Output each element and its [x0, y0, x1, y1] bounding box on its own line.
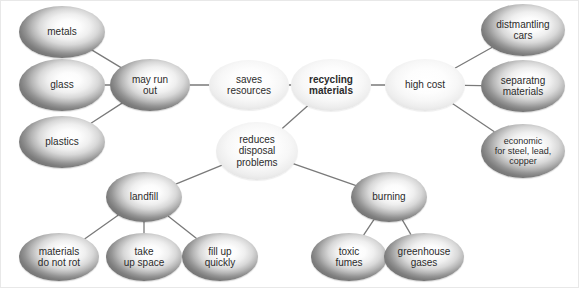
node-landfill[interactable]: landfill [106, 172, 182, 222]
node-take_space[interactable]: take up space [106, 233, 182, 281]
connector-landfill-to-fill_up [168, 216, 196, 238]
node-plastics[interactable]: plastics [19, 116, 105, 168]
connector-high_cost-to-economic [453, 104, 494, 132]
node-recycling[interactable]: recycling materials [291, 59, 371, 111]
connector-high_cost-to-dismantling [455, 47, 492, 68]
node-reduces[interactable]: reduces disposal problems [216, 122, 298, 180]
connector-reduces-to-landfill [176, 165, 221, 183]
node-glass[interactable]: glass [19, 59, 105, 111]
node-toxic[interactable]: toxic fumes [311, 233, 387, 281]
node-fill_up[interactable]: fill up quickly [182, 233, 258, 281]
node-may_run_out[interactable]: may run out [110, 59, 190, 111]
node-separating[interactable]: separatng materials [481, 60, 565, 112]
node-label-high_cost: high cost [405, 79, 445, 90]
node-label-glass: glass [50, 79, 73, 90]
node-not_rot[interactable]: materials do not rot [19, 233, 99, 281]
node-label-burning: burning [372, 191, 405, 202]
node-label-separating: separatng materials [501, 75, 545, 97]
connector-plastics-to-may_run_out [91, 103, 121, 123]
node-label-landfill: landfill [130, 191, 158, 202]
node-dismantling[interactable]: distmantling cars [481, 4, 565, 56]
connector-metals-to-may_run_out [92, 50, 120, 67]
node-label-toxic: toxic fumes [335, 246, 362, 268]
node-label-may_run_out: may run out [132, 74, 168, 96]
node-label-not_rot: materials do not rot [38, 246, 80, 268]
node-saves[interactable]: saves resources [209, 60, 289, 110]
node-label-plastics: plastics [45, 136, 78, 147]
node-label-economic: economic for steel, lead, copper [495, 136, 552, 166]
node-label-metals: metals [47, 26, 76, 37]
connector-recycling-to-reduces [282, 106, 307, 128]
connector-burning-to-toxic [364, 220, 374, 235]
connector-reduces-to-burning [294, 164, 356, 185]
node-label-saves: saves resources [227, 74, 271, 96]
node-label-greenhouse: greenhouse gases [398, 246, 451, 268]
node-label-dismantling: distmantling cars [496, 19, 549, 41]
node-high_cost[interactable]: high cost [385, 59, 465, 111]
node-label-fill_up: fill up quickly [205, 246, 236, 268]
connector-burning-to-greenhouse [403, 220, 411, 234]
node-metals[interactable]: metals [19, 6, 105, 58]
mind-map-canvas: metalsglassplasticsmay run outsaves reso… [0, 0, 579, 288]
node-label-take_space: take up space [124, 246, 165, 268]
connector-landfill-to-not_rot [85, 215, 118, 238]
node-greenhouse[interactable]: greenhouse gases [384, 233, 464, 281]
node-burning[interactable]: burning [351, 172, 427, 222]
node-label-recycling: recycling materials [309, 74, 353, 96]
node-economic[interactable]: economic for steel, lead, copper [481, 124, 565, 178]
node-label-reduces: reduces disposal problems [236, 134, 277, 168]
